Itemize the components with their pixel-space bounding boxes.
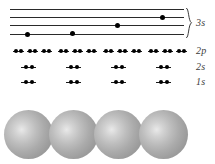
band-line-3s-4 <box>10 34 184 35</box>
electron-dot <box>154 49 158 53</box>
electron-dot <box>149 49 153 53</box>
electron-dot <box>114 80 118 84</box>
atom-sphere <box>139 110 188 159</box>
electron-dot <box>78 49 82 53</box>
electron-dot <box>104 49 108 53</box>
electron-dot <box>87 49 91 53</box>
electron-dot <box>137 49 141 53</box>
electron-dot <box>30 65 34 69</box>
electron-dot <box>19 49 23 53</box>
band-line-3s-1 <box>10 9 184 10</box>
band-electron-dot-3 <box>115 23 120 28</box>
atom-sphere <box>94 110 143 159</box>
electron-dot <box>163 49 167 53</box>
electron-dot <box>168 49 172 53</box>
level-label-2p: 2p <box>196 46 206 56</box>
electron-dot <box>120 65 124 69</box>
electron-dot <box>132 49 136 53</box>
electron-dot <box>165 80 169 84</box>
electron-dot <box>69 80 73 84</box>
electron-dot <box>75 80 79 84</box>
level-label-2s: 2s <box>196 62 205 72</box>
atom-sphere <box>49 110 98 159</box>
band-electron-dot-1 <box>25 32 30 37</box>
electron-dot <box>24 80 28 84</box>
electron-dot <box>47 49 51 53</box>
electron-dot <box>120 80 124 84</box>
electron-dot <box>109 49 113 53</box>
electron-dot <box>14 49 18 53</box>
electron-dot <box>75 65 79 69</box>
electron-dot <box>114 65 118 69</box>
electron-dot <box>92 49 96 53</box>
electron-dot <box>159 80 163 84</box>
electron-dot <box>182 49 186 53</box>
atom-sphere <box>4 110 53 159</box>
band-electron-dot-2 <box>70 31 75 36</box>
electron-dot <box>69 65 73 69</box>
electron-dot <box>42 49 46 53</box>
electron-dot <box>59 49 63 53</box>
level-label-1s: 1s <box>196 77 205 87</box>
brace-3s <box>185 8 194 38</box>
electron-dot <box>123 49 127 53</box>
electron-dot <box>30 80 34 84</box>
level-label-3s: 3s <box>196 18 205 28</box>
band-line-3s-2 <box>10 17 184 18</box>
electron-dot <box>28 49 32 53</box>
band-electron-dot-4 <box>160 15 165 20</box>
electron-dot <box>73 49 77 53</box>
electron-dot <box>177 49 181 53</box>
electron-dot <box>118 49 122 53</box>
orbital-energy-diagram: 3s 2p 2s 1s <box>0 0 215 164</box>
electron-dot <box>159 65 163 69</box>
band-line-3s-3 <box>10 25 184 26</box>
electron-dot <box>33 49 37 53</box>
electron-dot <box>64 49 68 53</box>
electron-dot <box>165 65 169 69</box>
electron-dot <box>24 65 28 69</box>
